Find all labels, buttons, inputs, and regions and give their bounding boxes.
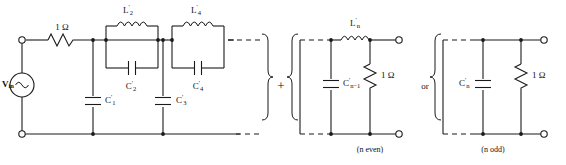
brace-n-even-block xyxy=(287,34,298,120)
cap-c1-label: C'1 xyxy=(105,93,115,106)
node-dot-cn1-bottom xyxy=(329,132,333,136)
node-dot-c1-top xyxy=(91,38,95,42)
load-resistor-even-label: 1 Ω xyxy=(381,70,395,80)
inductor-l4-sub: 4 xyxy=(198,9,202,16)
input-terminal-bottom xyxy=(19,131,25,137)
cap-cn1-label: C'n−1 xyxy=(343,76,360,89)
node-dot-tank1-right xyxy=(156,38,160,42)
node-dot-cn1-top xyxy=(329,38,333,42)
circuit-diagram: + or xyxy=(0,0,566,165)
output-terminal-odd-bottom xyxy=(541,131,547,137)
cap-c1-sub: 1 xyxy=(112,99,115,106)
series-resistor-label: 1 Ω xyxy=(55,22,69,32)
cap-c2-label: C'2 xyxy=(126,79,136,92)
input-terminal-top xyxy=(19,37,25,43)
node-dot-c1-bottom xyxy=(91,132,95,136)
cap-c4-sub: 4 xyxy=(200,85,204,92)
resistor-load-even-symbol xyxy=(364,64,376,110)
node-dot-cn-top xyxy=(481,38,485,42)
cap-c3-sub: 3 xyxy=(183,99,186,106)
cap-c2-sub: 2 xyxy=(133,85,136,92)
node-dot-tank2-left xyxy=(170,38,174,42)
caption-n-odd: (n odd) xyxy=(481,145,505,154)
inductor-l2-sub: 2 xyxy=(130,9,133,16)
cap-cn1-sub: n−1 xyxy=(350,82,360,89)
node-dot-c3-top xyxy=(161,38,165,42)
node-dot-tank1-left xyxy=(104,38,108,42)
inductor-ln-coil xyxy=(341,36,369,40)
node-dot-cn-bottom xyxy=(481,132,485,136)
inductor-l4-label: L'4 xyxy=(191,3,202,16)
resistor-1ohm-symbol xyxy=(48,34,76,46)
output-terminal-even-bottom xyxy=(396,131,402,137)
load-resistor-odd-label: 1 Ω xyxy=(532,70,546,80)
brace-left-network xyxy=(262,34,273,120)
tank-1 xyxy=(104,22,160,75)
cap-c3-label: C'3 xyxy=(176,93,186,106)
resistor-load-odd-symbol xyxy=(515,64,527,110)
node-dot-load-even-top xyxy=(368,38,372,42)
node-dot-c3-bottom xyxy=(161,132,165,136)
inductor-l4-coil xyxy=(183,22,213,26)
cap-cn-label: C'n xyxy=(459,76,470,89)
left-network xyxy=(10,22,262,137)
node-dot-load-even-bottom xyxy=(368,132,372,136)
node-dot-load-odd-bottom xyxy=(519,132,523,136)
inductor-l2-label: L'2 xyxy=(123,3,133,16)
output-terminal-odd-top xyxy=(541,37,547,43)
output-terminal-even-top xyxy=(396,37,402,43)
plus-sign: + xyxy=(277,78,284,93)
or-label: or xyxy=(421,81,429,91)
cap-cn-sub: n xyxy=(466,82,470,89)
brace-n-odd-block xyxy=(430,34,441,120)
inductor-ln-label: L'n xyxy=(350,16,361,29)
inductor-ln-sub: n xyxy=(357,22,361,29)
node-dot-load-odd-top xyxy=(519,38,523,42)
cap-c4-label: C'4 xyxy=(193,79,204,92)
source-label-sub: in xyxy=(9,82,15,89)
caption-n-even: (n even) xyxy=(357,145,384,154)
inductor-l2-coil xyxy=(117,22,147,26)
tank-2 xyxy=(170,22,224,75)
